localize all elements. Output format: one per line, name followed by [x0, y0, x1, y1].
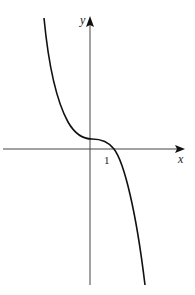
- graph: y x 1: [0, 0, 195, 295]
- x-tick-label-1: 1: [104, 154, 110, 166]
- curve: [44, 18, 145, 285]
- y-axis-label: y: [79, 13, 86, 27]
- x-axis-label: x: [177, 152, 184, 166]
